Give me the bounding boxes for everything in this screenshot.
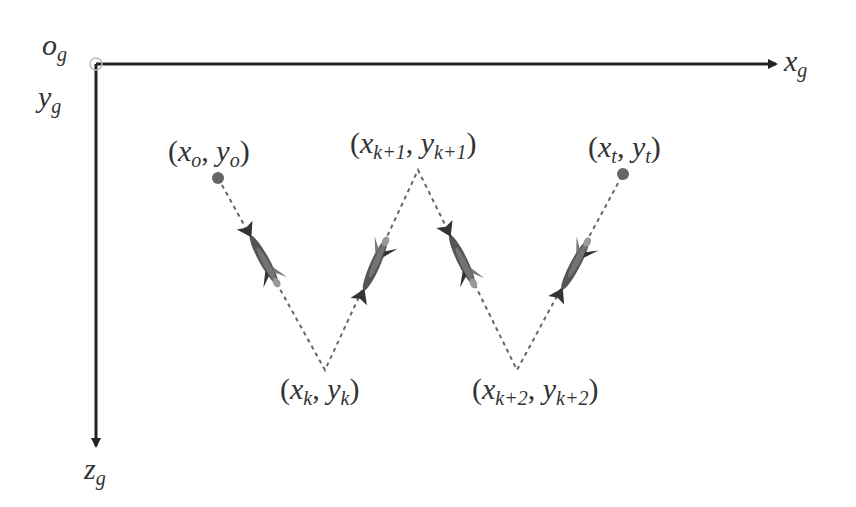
z-axis-label: zg — [84, 454, 106, 488]
point-label-k1: (xk+1, yk+1) — [350, 128, 476, 162]
target-point-dot — [617, 168, 629, 180]
origin-label: og — [42, 30, 67, 64]
start-point-dot — [212, 172, 224, 184]
fish-icon — [232, 219, 289, 294]
diagram-canvas — [0, 0, 856, 507]
point-label-start: (xo, yo) — [168, 136, 250, 170]
x-axis-label: xg — [784, 46, 807, 80]
fish-icon — [546, 232, 602, 307]
y-axis-label: yg — [38, 82, 61, 116]
point-label-target: (xt, yt) — [588, 132, 661, 166]
trajectory-path — [218, 170, 623, 370]
point-label-k2: (xk+2, yk+2) — [472, 374, 598, 408]
fish-icon — [348, 232, 401, 307]
fish-icon — [432, 219, 486, 294]
point-label-k: (xk, yk) — [280, 374, 359, 408]
